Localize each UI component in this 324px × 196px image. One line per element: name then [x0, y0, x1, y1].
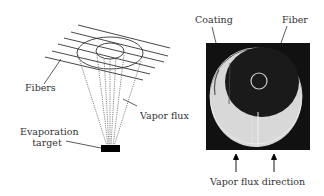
vapor-flux-direction-label: Vapor flux direction: [210, 176, 305, 187]
vapor-flux-label: Vapor flux: [140, 110, 189, 121]
fiber-core: [225, 47, 299, 117]
arrow-up-icon-left: [234, 154, 239, 172]
fiber-lines: [45, 25, 170, 80]
evaporation-target: [101, 145, 120, 152]
evaporation-target-label: Evaporation target: [20, 126, 74, 148]
coating-label: Coating: [195, 14, 233, 25]
deposition-diagram: [0, 0, 324, 196]
fiber-label: Fiber: [282, 14, 308, 25]
evaporation-target-label-line2: target: [20, 137, 74, 148]
arrow-up-icon-right: [272, 154, 277, 172]
micrograph: [206, 43, 310, 150]
fibers-label: Fibers: [25, 82, 56, 93]
evaporation-target-label-line1: Evaporation: [20, 126, 74, 137]
